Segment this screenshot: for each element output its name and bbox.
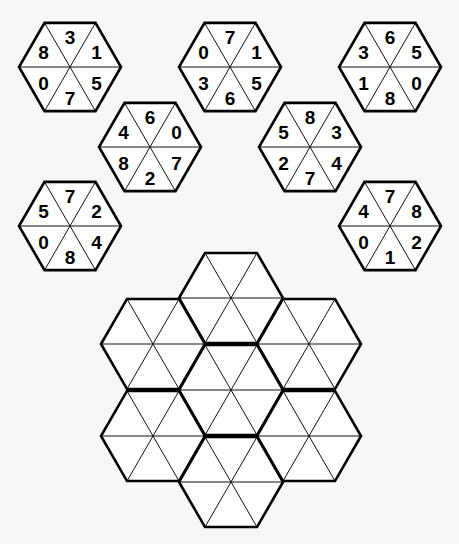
- piece-1[interactable]: 315708: [19, 23, 121, 111]
- segment-number-bottom-left: 0: [358, 232, 369, 253]
- segment-number-bottom-left: 1: [358, 73, 369, 94]
- segment-number-top-right: 3: [331, 122, 342, 143]
- piece-5[interactable]: 834725: [259, 103, 361, 191]
- puzzle-board: 3157087156306508136072848347257248057821…: [0, 0, 459, 544]
- segment-number-top-right: 2: [91, 201, 102, 222]
- segment-number-top-left: 4: [118, 122, 129, 143]
- segment-number-bottom-right: 5: [251, 73, 262, 94]
- segment-number-top-left: 0: [198, 42, 209, 63]
- segment-number-bottom: 8: [65, 247, 76, 268]
- segment-number-bottom: 6: [225, 88, 236, 109]
- segment-number-bottom-right: 2: [411, 232, 422, 253]
- segment-number-top: 6: [385, 27, 396, 48]
- segment-number-top: 7: [65, 186, 76, 207]
- piece-6[interactable]: 724805: [19, 182, 121, 270]
- pieces-area: 3157087156306508136072848347257248057821…: [19, 23, 441, 270]
- segment-number-bottom-left: 0: [38, 73, 49, 94]
- segment-number-bottom: 7: [305, 168, 316, 189]
- segment-number-top-right: 1: [91, 42, 102, 63]
- segment-number-bottom-left: 8: [118, 153, 129, 174]
- segment-number-bottom-left: 0: [38, 232, 49, 253]
- segment-number-top-right: 5: [411, 42, 422, 63]
- segment-number-top-right: 1: [251, 42, 262, 63]
- segment-number-bottom-right: 7: [171, 153, 182, 174]
- piece-2[interactable]: 715630: [179, 23, 281, 111]
- segment-number-top-left: 5: [38, 201, 49, 222]
- segment-number-top-left: 8: [38, 42, 49, 63]
- piece-3[interactable]: 650813: [339, 23, 441, 111]
- segment-number-bottom-right: 0: [411, 73, 422, 94]
- segment-number-top: 8: [305, 107, 316, 128]
- segment-number-top: 6: [145, 107, 156, 128]
- segment-number-bottom: 7: [65, 88, 76, 109]
- segment-number-bottom-right: 4: [91, 232, 102, 253]
- segment-number-top: 7: [385, 186, 396, 207]
- segment-number-bottom-right: 4: [331, 153, 342, 174]
- segment-number-bottom-left: 3: [198, 73, 209, 94]
- segment-number-top-left: 5: [278, 122, 289, 143]
- segment-number-top: 7: [225, 27, 236, 48]
- piece-4[interactable]: 607284: [99, 103, 201, 191]
- segment-number-bottom-right: 5: [91, 73, 102, 94]
- segment-number-bottom: 8: [385, 88, 396, 109]
- segment-number-top: 3: [65, 27, 76, 48]
- segment-number-bottom-left: 2: [278, 153, 289, 174]
- segment-number-bottom: 2: [145, 168, 156, 189]
- piece-7[interactable]: 782104: [339, 182, 441, 270]
- segment-number-top-left: 3: [358, 42, 369, 63]
- segment-number-top-right: 0: [171, 122, 182, 143]
- segment-number-top-right: 8: [411, 201, 422, 222]
- segment-number-top-left: 4: [358, 201, 369, 222]
- segment-number-bottom: 1: [385, 247, 396, 268]
- target-grid: [101, 253, 361, 527]
